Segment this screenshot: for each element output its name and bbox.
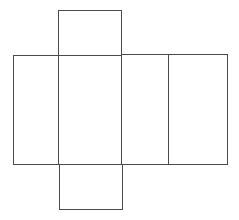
cuboid-net-diagram	[0, 0, 239, 220]
back-face	[169, 55, 228, 165]
top-face	[59, 11, 122, 56]
right-face	[122, 55, 169, 165]
left-face	[14, 56, 59, 165]
front-face	[59, 56, 122, 165]
bottom-face	[60, 165, 123, 210]
